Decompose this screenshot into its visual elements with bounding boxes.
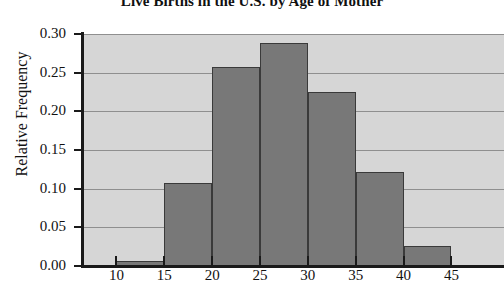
x-axis-tick — [211, 256, 213, 267]
x-axis-tick-label: 10 — [96, 268, 136, 283]
y-axis-tick-label: 0.30 — [22, 26, 66, 41]
y-axis-tick-label: 0.10 — [22, 181, 66, 196]
bar — [164, 183, 212, 266]
y-axis-tick — [74, 265, 83, 267]
x-axis-tick-label: 45 — [431, 268, 471, 283]
y-axis-tick-label: 0.00 — [22, 258, 66, 273]
y-axis-tick-label: 0.05 — [22, 219, 66, 234]
histogram-figure: Live Births in the U.S. by Age of Mother… — [0, 0, 504, 292]
y-axis-tick — [74, 110, 83, 112]
x-axis-tick — [115, 256, 117, 267]
x-axis-tick — [403, 256, 405, 267]
x-axis-tick-label: 15 — [144, 268, 184, 283]
bar — [212, 67, 260, 266]
y-axis-tick — [74, 33, 83, 35]
y-axis-tick-label: 0.25 — [22, 65, 66, 80]
x-axis-tick — [307, 256, 309, 267]
x-axis-tick-label: 25 — [240, 268, 280, 283]
plot-area — [83, 34, 504, 266]
y-axis-tick — [74, 149, 83, 151]
chart-title: Live Births in the U.S. by Age of Mother — [0, 0, 504, 10]
x-axis-tick-label: 30 — [288, 268, 328, 283]
x-axis-tick — [450, 256, 452, 267]
bar — [356, 172, 404, 266]
y-axis-tick — [74, 226, 83, 228]
gridline — [83, 34, 504, 35]
x-axis-tick — [259, 256, 261, 267]
y-axis-tick-label: 0.20 — [22, 103, 66, 118]
x-axis-tick — [163, 256, 165, 267]
y-axis-tick — [74, 72, 83, 74]
y-axis-tick — [74, 188, 83, 190]
y-axis-tick-label: 0.15 — [22, 142, 66, 157]
bar — [404, 246, 452, 266]
bar — [308, 92, 356, 266]
x-axis-tick-label: 35 — [336, 268, 376, 283]
x-axis-tick-label: 20 — [192, 268, 232, 283]
x-axis-tick — [355, 256, 357, 267]
x-axis-tick-label: 40 — [384, 268, 424, 283]
bar — [260, 43, 308, 266]
